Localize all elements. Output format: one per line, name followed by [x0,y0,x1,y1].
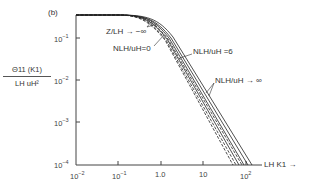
x-tick-4: 10 [199,170,207,179]
curves [76,15,252,165]
y-label-denominator: LH uH² [3,77,51,88]
panel-label: (b) [48,8,58,17]
y-tick-4: 10−4 [54,159,69,170]
y-axis-label: Θ11 (K1) LH uH² [3,65,51,88]
plot-area [0,0,315,187]
y-tick-1: 10−1 [54,33,69,44]
annotation-nlinf: NLH/uH → ∞ [215,76,262,85]
y-tick-3: 10−3 [54,117,69,128]
x-tick-5: 102 [240,170,251,181]
x-tick-3: 1.0 [155,170,165,179]
x-axis-label: LH K1 → [264,160,296,169]
x-tick-1: 10−2 [70,170,85,181]
annotation-z: Z/LH → −∞ [106,27,146,36]
annotation-nl0: NLH/uH=0 [113,44,151,53]
annotation-nl6: NLH/uH =6 [193,47,233,56]
y-tick-2: 10−2 [54,75,69,86]
y-label-numerator: Θ11 (K1) [3,65,51,77]
x-tick-2: 10−1 [112,170,127,181]
